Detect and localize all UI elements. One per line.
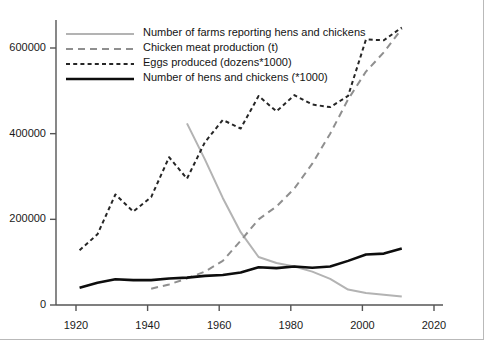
y-tick-label: 600000 [0, 41, 46, 53]
legend-label-1: Chicken meat production (t) [143, 41, 278, 53]
x-tick-label: 2020 [404, 319, 464, 331]
y-tick-label: 0 [0, 298, 46, 310]
y-tick-label: 200000 [0, 212, 46, 224]
chart-figure: 0200000400000600000192019401960198020002… [0, 0, 485, 354]
y-tick-label: 400000 [0, 127, 46, 139]
series-line-0 [187, 123, 402, 296]
line-chart-plot [0, 0, 485, 354]
legend-label-2: Eggs produced (dozens*1000) [143, 56, 292, 68]
x-tick-label: 2000 [332, 319, 392, 331]
legend-label-3: Number of hens and chickens (*1000) [143, 71, 328, 83]
legend-label-0: Number of farms reporting hens and chick… [143, 26, 366, 38]
x-tick-label: 1960 [189, 319, 249, 331]
series-line-3 [80, 248, 402, 287]
x-tick-label: 1980 [261, 319, 321, 331]
x-tick-label: 1920 [46, 319, 106, 331]
x-tick-label: 1940 [118, 319, 178, 331]
